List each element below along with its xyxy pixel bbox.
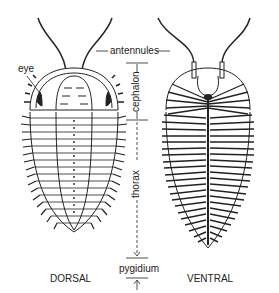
view-label-ventral: VENTRAL <box>187 274 233 284</box>
label-eye: eye <box>18 64 34 74</box>
ventral-specimen <box>158 18 254 248</box>
trilobite-diagram <box>0 0 279 293</box>
view-label-dorsal: DORSAL <box>50 274 91 284</box>
label-antennules: antennules <box>110 46 159 56</box>
label-cephalon: cephalon <box>130 71 141 112</box>
label-pygidium: pygidium <box>119 264 159 274</box>
label-thorax: thorax <box>130 170 141 198</box>
